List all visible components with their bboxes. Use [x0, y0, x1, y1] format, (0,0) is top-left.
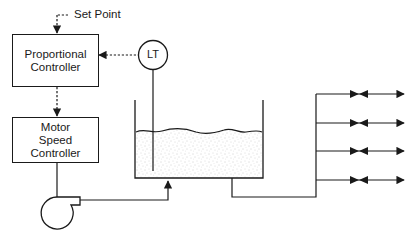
- branch-2: [316, 119, 404, 127]
- proportional-controller-box: Proportional Controller: [12, 34, 99, 87]
- proportional-controller-label-1: Proportional: [24, 48, 86, 61]
- branch-4: [316, 176, 404, 184]
- pump-icon: [41, 197, 80, 229]
- motor-speed-controller-label-1: Motor: [41, 121, 70, 134]
- valve-icon: [350, 119, 368, 127]
- branch-3: [316, 147, 404, 155]
- motor-speed-controller-label-3: Controller: [31, 147, 81, 160]
- valve-icon: [350, 90, 368, 98]
- motor-speed-controller-label-2: Speed: [39, 134, 72, 147]
- pump-discharge-pipe: [80, 181, 168, 200]
- distribution-header: [316, 90, 404, 184]
- tank-liquid: [136, 128, 262, 178]
- motor-speed-controller-box: Motor Speed Controller: [12, 117, 99, 163]
- valve-icon: [350, 147, 368, 155]
- branch-1: [316, 90, 404, 98]
- tank: [135, 100, 263, 178]
- valve-icon: [350, 176, 368, 184]
- set-point-signal: [57, 15, 68, 33]
- set-point-label: Set Point: [74, 8, 121, 21]
- level-transmitter-label: LT: [141, 48, 165, 61]
- proportional-controller-label-2: Controller: [31, 61, 81, 74]
